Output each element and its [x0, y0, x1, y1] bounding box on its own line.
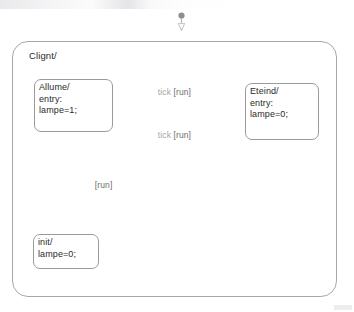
edge-guard-text: [run] — [95, 180, 113, 190]
state-allume[interactable]: Allume/ entry: lampe=1; — [34, 79, 113, 132]
edge-label-eteind-to-allume: tick [run] — [148, 120, 191, 150]
edge-event-text: tick — [158, 130, 171, 140]
edge-label-init-to-allume: [run] — [85, 170, 112, 200]
state-init-label: init/ lampe=0; — [38, 237, 76, 260]
scan-artifact-top — [0, 0, 354, 9]
state-init[interactable]: init/ lampe=0; — [33, 234, 99, 269]
clignt-container-label: Clignt/ — [29, 50, 57, 61]
scan-artifact-corner — [334, 305, 352, 310]
edge-guard-text: [run] — [173, 87, 191, 97]
state-eteind[interactable]: Eteind/ entry: lampe=0; — [245, 83, 319, 140]
initial-marker-top — [178, 12, 184, 30]
state-eteind-label: Eteind/ entry: lampe=0; — [250, 86, 288, 121]
edge-label-allume-to-eteind: tick [run] — [148, 77, 191, 107]
state-allume-label: Allume/ entry: lampe=1; — [39, 82, 77, 117]
edge-event-text: tick — [158, 87, 171, 97]
statechart-canvas: Clignt/ Allume/ entry: lampe=1; Eteind/ … — [0, 0, 354, 312]
edge-guard-text: [run] — [173, 130, 191, 140]
